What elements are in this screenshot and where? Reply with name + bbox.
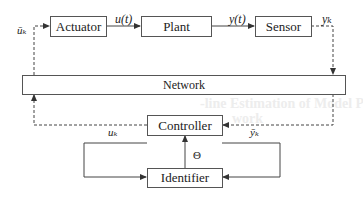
label-u-k: uₖ — [108, 126, 118, 139]
arrow-network-actuator — [34, 26, 49, 75]
sensor-block: Sensor — [255, 16, 312, 37]
label-y-k: yₖ — [322, 12, 332, 27]
arrow-uk-identifier — [84, 143, 147, 177]
arrow-controller-network — [34, 95, 147, 125]
label-u-t: u(t) — [115, 12, 132, 27]
label-y-bar-k: ȳₖ — [250, 126, 259, 139]
arrow-sensor-network — [311, 26, 333, 74]
label-u-bar-k: ūₖ — [17, 24, 27, 37]
label-y-t: y(t) — [229, 12, 246, 27]
network-block: Network — [22, 75, 346, 95]
arrow-yk-identifier — [222, 143, 280, 177]
controller-block: Controller — [147, 115, 223, 136]
identifier-block: Identifier — [147, 168, 223, 188]
actuator-block: Actuator — [50, 16, 107, 37]
plant-block: Plant — [141, 16, 212, 37]
arrow-network-controller — [223, 94, 333, 125]
label-theta: Θ — [193, 149, 201, 161]
